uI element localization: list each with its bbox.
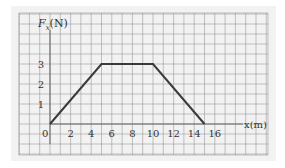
x-tick-label: 0	[42, 128, 48, 139]
y-tick-label: 2	[38, 79, 44, 90]
axes	[50, 30, 243, 144]
grid-lines	[19, 13, 268, 155]
x-tick-label: 12	[167, 128, 180, 139]
x-axis-label: x(m)	[244, 119, 267, 130]
y-tick-label: 1	[38, 99, 44, 110]
x-tick-label: 6	[109, 128, 115, 139]
y-axis-label: Fx(N)	[37, 17, 68, 32]
force-position-chart: 0246810121416123 Fx(N) x(m)	[0, 0, 285, 168]
x-tick-label: 4	[88, 128, 94, 139]
x-tick-label: 16	[208, 128, 221, 139]
x-tick-label: 14	[188, 128, 201, 139]
x-tick-label: 8	[129, 128, 135, 139]
y-tick-label: 3	[38, 59, 44, 70]
tick-labels: 0246810121416123	[38, 59, 221, 139]
x-tick-label: 10	[147, 128, 160, 139]
x-tick-label: 2	[67, 128, 73, 139]
